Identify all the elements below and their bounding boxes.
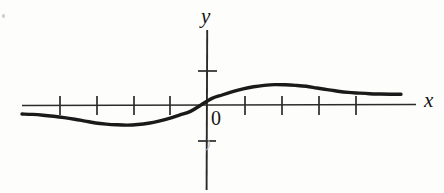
y-axis-label: y xyxy=(201,6,210,27)
x-axis-line xyxy=(22,105,416,106)
x-axis-label: x xyxy=(424,90,433,111)
origin-label: 0 xyxy=(211,108,221,128)
scan-artifact-mark: ) xyxy=(206,137,210,150)
math-figure: y x 0 ) xyxy=(0,0,444,193)
y-axis-line xyxy=(207,30,208,190)
plot-canvas xyxy=(0,0,444,193)
